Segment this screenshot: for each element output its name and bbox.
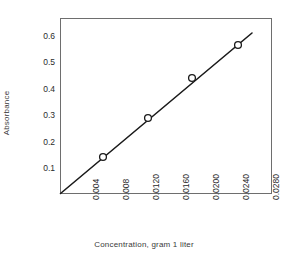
y-tick-label-3: 0.3	[33, 111, 55, 120]
x-tick-label-1: 0.008	[122, 179, 131, 200]
y-tick-label-0: 0.6	[33, 32, 55, 41]
y-tick-label-4: 0.2	[33, 138, 55, 147]
y-tick-label-1: 0.5	[33, 58, 55, 67]
y-axis-title: Absorbance	[2, 58, 11, 168]
x-tick-label-6: 0.0280	[272, 174, 281, 200]
x-tick-label-5: 0.0240	[242, 174, 251, 200]
x-tick-label-3: 0.0160	[182, 174, 191, 200]
x-tick-label-0: 0.004	[92, 179, 101, 200]
x-tick-label-2: 0.0120	[152, 174, 161, 200]
y-tick-label-5: 0.1	[33, 164, 55, 173]
y-tick-label-2: 0.4	[33, 85, 55, 94]
x-axis-title: Concentration, gram 1 liter	[0, 240, 288, 249]
absorbance-calibration-chart: 0.6 0.5 0.4 0.3 0.2 0.1 0.004 0.008 0.01…	[0, 0, 288, 261]
plot-area-frame	[60, 18, 272, 194]
x-tick-label-4: 0.0200	[212, 174, 221, 200]
